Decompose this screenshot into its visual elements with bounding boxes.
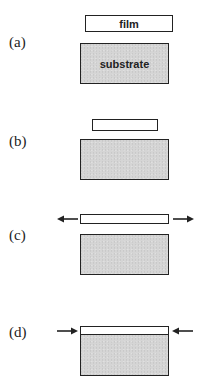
- arrow-left-inward-icon: [171, 325, 195, 337]
- arrow-left-outward-icon: [56, 213, 80, 225]
- panel-label-c: (c): [9, 228, 26, 243]
- panel-label-d: (d): [9, 325, 27, 340]
- film-a: film: [85, 15, 173, 32]
- arrow-right-outward-icon: [171, 213, 195, 225]
- substrate-d: [80, 334, 169, 376]
- panel-label-a: (a): [9, 35, 26, 50]
- panel-label-b: (b): [9, 134, 27, 149]
- substrate-a: substrate: [80, 43, 169, 84]
- arrow-right-inward-icon: [55, 325, 79, 337]
- film-c: [80, 214, 169, 224]
- film-b: [92, 119, 158, 131]
- substrate-c: [80, 234, 169, 275]
- substrate-b: [80, 139, 169, 180]
